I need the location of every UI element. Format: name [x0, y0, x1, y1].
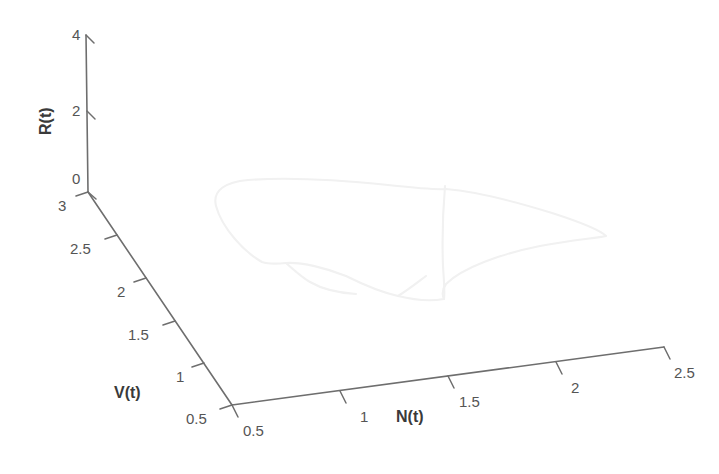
n-axis-title: N(t) — [396, 409, 424, 425]
v-axis-tick-0p5 — [220, 405, 232, 409]
r-tick-label-2: 2 — [72, 103, 80, 118]
r-axis-line — [86, 35, 88, 192]
v-axis-tick-3 — [76, 192, 88, 196]
n-tick-label-1p5: 1.5 — [459, 394, 480, 409]
v-tick-label-2p5: 2.5 — [70, 241, 91, 256]
n-axis-tick-0p5 — [232, 405, 238, 417]
plot-canvas — [0, 0, 719, 474]
n-axis-tick-2 — [556, 362, 562, 374]
v-tick-label-2: 2 — [117, 284, 125, 299]
phase-space-figure: 4 2 0 R(t) 3 2.5 2 1.5 1 0.5 V(t) 0.5 1 … — [0, 0, 719, 474]
trajectory-curve — [215, 179, 606, 300]
r-axis-tick-4 — [86, 35, 94, 43]
r-axis-tick-2 — [87, 111, 95, 119]
trajectory-spike — [443, 186, 445, 299]
v-tick-label-1p5: 1.5 — [128, 327, 149, 342]
n-axis-tick-2p5 — [664, 347, 670, 359]
r-tick-label-4: 4 — [72, 27, 80, 42]
n-tick-label-0p5: 0.5 — [243, 423, 264, 438]
n-axis-tick-1p5 — [448, 376, 454, 388]
trajectory-inner-kink-2 — [398, 276, 426, 296]
n-tick-label-2p5: 2.5 — [674, 365, 695, 380]
v-axis-title: V(t) — [114, 385, 141, 401]
n-tick-label-2: 2 — [571, 380, 579, 395]
v-axis-line — [88, 192, 232, 405]
v-axis-tick-1p5 — [163, 321, 175, 325]
r-tick-label-0: 0 — [72, 171, 80, 186]
v-tick-label-0p5: 0.5 — [186, 411, 207, 426]
v-tick-label-3: 3 — [58, 198, 66, 213]
v-tick-label-1: 1 — [176, 369, 184, 384]
r-axis-title: R(t) — [38, 107, 54, 135]
n-tick-label-1: 1 — [360, 409, 368, 424]
v-axis-tick-2p5 — [105, 235, 117, 239]
v-axis-tick-2 — [134, 278, 146, 282]
n-axis-tick-1 — [340, 391, 346, 403]
v-axis-tick-1 — [192, 363, 204, 367]
